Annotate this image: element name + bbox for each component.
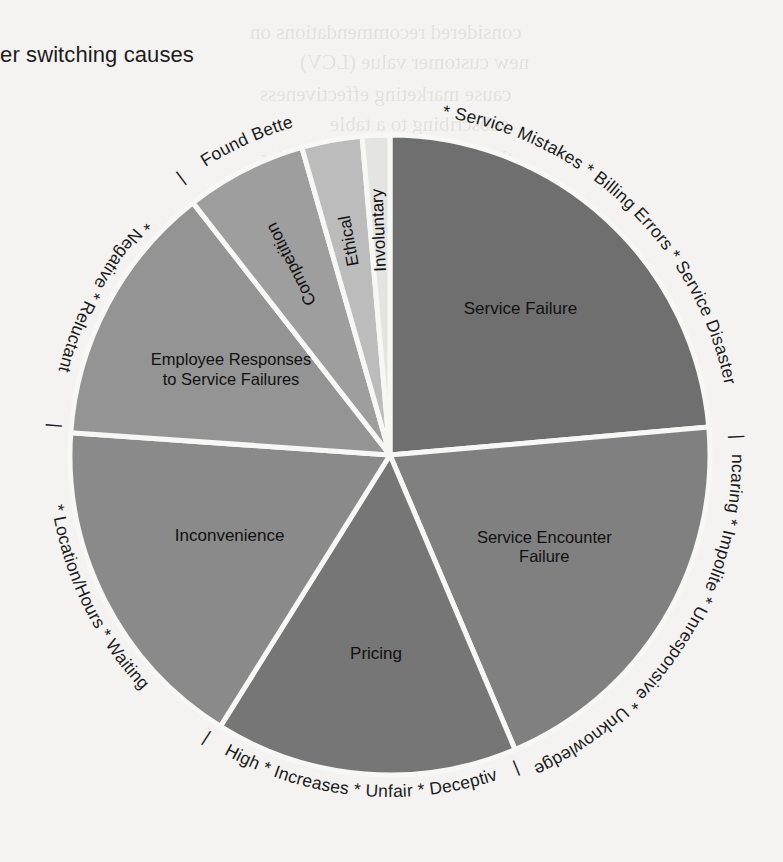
- pie-wedge-group: [70, 135, 710, 775]
- slice-label-employee-responses-to-service-failures: Employee Responsesto Service Failures: [151, 351, 312, 388]
- rim-label-separator-3: |: [200, 727, 215, 746]
- rim-label-text: |: [510, 756, 522, 776]
- slice-label-line: Employee Responses: [151, 351, 312, 369]
- rim-label-text: |: [173, 168, 189, 187]
- slice-label-line: Service Encounter: [477, 528, 612, 546]
- slice-label-service-failure: Service Failure: [464, 300, 577, 319]
- rim-label-text: |: [727, 434, 747, 440]
- rim-label-separator-1: |: [727, 434, 747, 440]
- pie-chart-svg: Service FailureService EncounterFailureP…: [0, 0, 783, 862]
- rim-label-text: |: [200, 727, 215, 746]
- slice-label-line: to Service Failures: [163, 370, 300, 388]
- slice-label-involuntary: Involuntary: [368, 188, 391, 272]
- slice-label-line: Inconvenience: [175, 526, 285, 545]
- rim-label-competition: * Found Better: [0, 0, 295, 173]
- slice-label-line: Involuntary: [368, 188, 391, 272]
- rim-label-separator-4: |: [45, 422, 65, 428]
- pie-slice-service-failure[interactable]: [390, 135, 709, 455]
- rim-label-text: |: [45, 422, 65, 428]
- slice-label-line: Service Failure: [464, 300, 577, 319]
- pie-chart: Service FailureService EncounterFailureP…: [0, 0, 783, 862]
- rim-label-text: * Found Better: [0, 0, 295, 173]
- slice-label-pricing: Pricing: [350, 644, 402, 663]
- slice-label-line: Pricing: [350, 644, 402, 663]
- slice-label-line: Failure: [519, 547, 569, 565]
- rim-label-separator-5: |: [173, 168, 189, 187]
- rim-label-separator-2: |: [510, 756, 522, 776]
- slice-label-inconvenience: Inconvenience: [175, 526, 285, 545]
